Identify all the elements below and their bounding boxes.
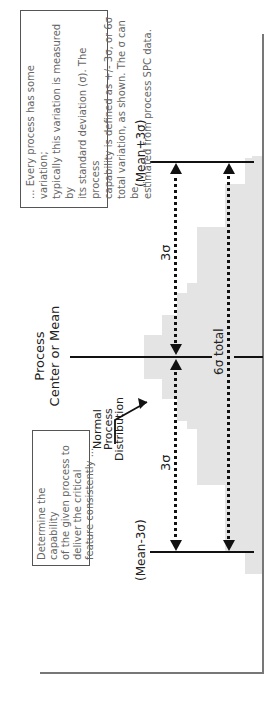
- arrow-right-icon: [223, 163, 235, 174]
- arrow-right-icon: [170, 163, 182, 174]
- process-center-label: Process Center or Mean: [32, 296, 62, 416]
- process-center-label-line1: Process: [32, 296, 47, 416]
- explanation-note-box: ... Every process has some variation; ty…: [20, 10, 108, 208]
- upper-limit-line: [150, 161, 254, 163]
- arrow-right-icon: [170, 359, 182, 370]
- lower-half-dotted-line: [174, 364, 177, 544]
- total-sigma-label: 6σ total: [212, 327, 226, 378]
- arrow-left-icon: [170, 540, 182, 551]
- histogram-bin: [225, 184, 262, 227]
- mean-line-lower: [234, 356, 263, 358]
- histogram-bin: [245, 551, 262, 574]
- histogram-bin: [177, 293, 262, 315]
- lower-limit-label: (Mean-3σ): [134, 519, 148, 581]
- x-axis-baseline: [262, 34, 264, 674]
- upper-half-sigma-label: 3σ: [158, 243, 173, 262]
- histogram-bin: [252, 156, 262, 158]
- pointer-arrow-icon: [100, 384, 160, 464]
- histogram-bin: [177, 399, 262, 421]
- lower-half-sigma-label: 3σ: [158, 453, 173, 472]
- upper-half-dotted-line: [174, 170, 177, 350]
- arrow-left-icon: [223, 540, 235, 551]
- histogram-bin: [187, 421, 262, 429]
- total-span-dotted-line: [227, 170, 230, 544]
- mean-line-upper: [70, 356, 212, 358]
- histogram-bin: [144, 335, 262, 357]
- y-axis-left: [40, 672, 264, 674]
- process-center-label-line2: Center or Mean: [47, 296, 62, 416]
- arrow-left-icon: [170, 344, 182, 355]
- lower-limit-line: [150, 551, 254, 553]
- process-capability-diagram: (Mean-3σ) (Mean+3σ) 3σ 3σ 6σ total Proce…: [0, 0, 278, 704]
- histogram-bin: [162, 379, 262, 399]
- intro-note-box: Determine the capability of the given pr…: [32, 430, 90, 566]
- histogram-bin: [187, 283, 262, 293]
- histogram-bin: [144, 357, 262, 379]
